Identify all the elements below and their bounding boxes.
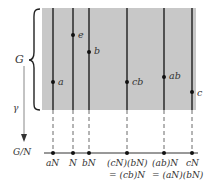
point-label-b: b	[94, 46, 100, 56]
coset-label-bN: bN	[82, 159, 96, 168]
point-label-a: a	[58, 77, 64, 87]
map-label: γ	[13, 104, 18, 113]
group-label: G	[15, 54, 24, 65]
group-region	[42, 8, 196, 110]
quotient-label: G/N	[13, 148, 31, 157]
coset-label-cNbN: (cN)(bN)	[107, 159, 148, 168]
point-label-c: c	[197, 88, 202, 98]
point-label-cb: cb	[132, 77, 143, 87]
coset-label-N: N	[69, 159, 77, 168]
coset-label-cbN: = (cb)N	[109, 171, 145, 180]
arrow-down-icon	[21, 134, 27, 142]
coset-label-abN: (ab)N	[152, 159, 178, 168]
group-brace	[29, 9, 40, 110]
point-label-e: e	[78, 30, 84, 40]
coset-label-aNbN: = (aN)(bN)	[152, 171, 203, 180]
coset-label-aN: aN	[46, 159, 59, 168]
coset-label-cN: cN	[186, 159, 199, 168]
point-label-ab: ab	[169, 71, 181, 81]
projection-lines	[53, 110, 192, 153]
